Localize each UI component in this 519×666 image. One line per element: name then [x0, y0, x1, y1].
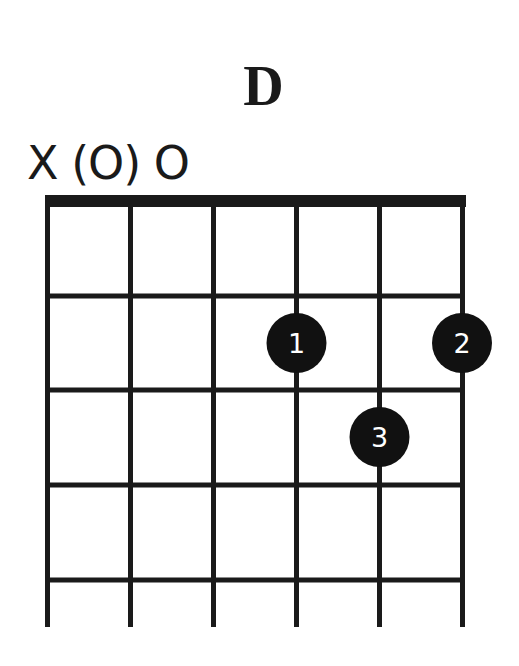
svg-text:2: 2 [453, 328, 470, 359]
finger-dot-2: 2 [432, 313, 492, 373]
fretboard: 1 2 3 [0, 0, 519, 666]
finger-dot-3: 3 [350, 407, 410, 467]
svg-text:1: 1 [288, 328, 305, 359]
strings [48, 200, 463, 627]
svg-text:3: 3 [371, 422, 388, 453]
finger-dot-1: 1 [267, 313, 327, 373]
nut [45, 195, 466, 207]
